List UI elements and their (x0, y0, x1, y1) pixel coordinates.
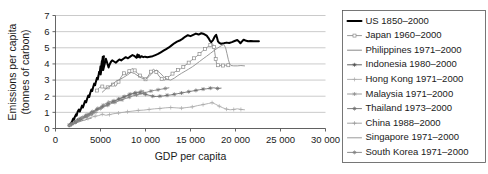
legend-label: Philippines 1971–2000 (366, 44, 462, 55)
legend-item-singapore[interactable]: Singapore 1971–2000 (344, 131, 485, 146)
data-marker (172, 92, 176, 96)
legend-label: China 1988–2000 (366, 117, 441, 128)
data-marker (165, 93, 169, 97)
data-marker (214, 58, 217, 61)
data-marker (353, 34, 356, 37)
y-axis-title: Emissions per capita(tonnes of carbon) (6, 23, 30, 120)
data-marker (216, 64, 219, 67)
data-marker (77, 118, 81, 122)
legend-item-philippines[interactable]: Philippines 1971–2000 (344, 43, 485, 58)
legend-item-thailand[interactable]: Thailand 1973–2000 (344, 102, 485, 117)
data-marker (113, 100, 117, 104)
legend-item-us[interactable]: US 1850–2000 (344, 14, 485, 29)
data-marker (122, 72, 125, 75)
data-marker (353, 92, 357, 96)
data-marker (99, 106, 103, 110)
legend-label: Malaysia 1971–2000 (366, 88, 454, 99)
data-series (67, 33, 259, 127)
data-marker (151, 94, 155, 98)
data-marker (149, 89, 153, 93)
data-marker (216, 86, 220, 90)
x-tick-label: 15 000 (176, 134, 205, 145)
x-tick-label: 25 000 (266, 134, 295, 145)
data-marker (95, 89, 98, 92)
legend-label: South Korea 1971–2000 (366, 146, 469, 157)
data-marker (120, 98, 124, 102)
data-marker (232, 107, 236, 111)
data-marker (128, 70, 131, 73)
data-marker (198, 52, 201, 55)
data-marker (201, 87, 205, 91)
series-line (102, 45, 244, 93)
legend-item-hong[interactable]: Hong Kong 1971–2000 (344, 72, 485, 87)
legend-item-malaysia[interactable]: Malaysia 1971–2000 (344, 87, 485, 102)
series-line (88, 103, 245, 119)
tick-labels: 012345670500010 00015 00020 00025 00030 … (44, 10, 340, 145)
chart-figure: 012345670500010 00015 00020 00025 00030 … (0, 0, 488, 174)
y-tick-label: 2 (44, 91, 49, 102)
data-marker (158, 94, 162, 98)
legend-label: Japan 1960–2000 (366, 29, 442, 40)
legend-label: Singapore 1971–2000 (366, 131, 460, 142)
data-marker (182, 65, 185, 68)
data-marker (84, 114, 88, 118)
x-tick-label: 20 000 (221, 134, 250, 145)
data-marker (209, 43, 212, 46)
data-marker (187, 61, 190, 64)
data-marker (353, 150, 357, 154)
data-marker (158, 106, 162, 110)
data-marker (93, 114, 97, 118)
series-singapore (102, 45, 244, 93)
data-marker (101, 85, 104, 88)
data-marker (163, 86, 167, 90)
data-marker (126, 110, 130, 114)
data-marker (180, 106, 184, 110)
legend-label: Thailand 1973–2000 (366, 102, 453, 113)
data-marker (108, 113, 112, 117)
data-marker (100, 112, 104, 116)
data-marker (180, 91, 184, 95)
y-tick-label: 0 (44, 123, 49, 134)
data-marker (156, 88, 160, 92)
data-marker (221, 64, 224, 67)
x-tick-label: 0 (53, 134, 58, 145)
data-marker (212, 45, 215, 48)
y-tick-label: 4 (44, 58, 49, 69)
data-marker (160, 77, 163, 80)
data-marker (133, 69, 136, 72)
y-tick-label: 7 (44, 10, 49, 21)
legend-label: Indonesia 1980–2000 (366, 58, 457, 69)
legend-item-china[interactable]: China 1988–2000 (344, 116, 485, 131)
data-marker (239, 107, 243, 111)
emissions-vs-gdp-chart: 012345670500010 00015 00020 00025 00030 … (0, 0, 488, 174)
data-marker (136, 108, 140, 112)
data-marker (169, 106, 173, 110)
data-marker (208, 86, 212, 90)
legend-item-south[interactable]: South Korea 1971–2000 (344, 145, 485, 160)
data-marker (353, 107, 357, 111)
data-marker (117, 111, 121, 115)
y-tick-label: 3 (44, 74, 49, 85)
data-marker (187, 90, 191, 94)
legend-label: US 1850–2000 (366, 15, 429, 26)
x-tick-label: 5000 (90, 134, 111, 145)
data-marker (193, 57, 196, 60)
y-tick-label: 1 (44, 107, 49, 118)
data-marker (176, 69, 179, 72)
data-marker (217, 104, 221, 108)
legend-label: Hong Kong 1971–2000 (366, 73, 464, 84)
data-marker (203, 48, 206, 51)
y-tick-label: 5 (44, 42, 49, 53)
data-marker (225, 107, 229, 111)
data-marker (142, 91, 146, 95)
data-marker (171, 72, 174, 75)
legend-item-japan[interactable]: Japan 1960–2000 (344, 29, 485, 44)
data-marker (147, 107, 151, 111)
data-marker (194, 88, 198, 92)
legend-item-indonesia[interactable]: Indonesia 1980–2000 (344, 58, 485, 73)
chart-legend: US 1850–2000Japan 1960–2000Philippines 1… (343, 11, 486, 163)
x-tick-label: 30 000 (311, 134, 340, 145)
data-marker (106, 103, 110, 107)
x-tick-label: 10 000 (131, 134, 160, 145)
data-marker (201, 103, 205, 107)
